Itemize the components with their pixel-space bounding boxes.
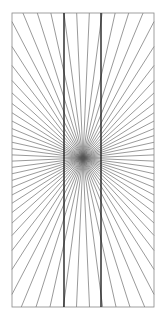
ray-line: [37, 13, 83, 158]
ray-line: [12, 158, 83, 294]
ray-line: [83, 158, 154, 269]
radiating-lines: [12, 13, 154, 307]
ray-line: [12, 158, 83, 269]
ray-line: [76, 158, 83, 307]
ray-line: [83, 158, 130, 307]
ray-line: [12, 158, 83, 195]
ray-line: [23, 13, 83, 158]
ray-line: [83, 22, 154, 158]
ray-line: [83, 158, 154, 195]
ray-line: [21, 158, 83, 307]
ray-line: [12, 47, 83, 158]
ray-line: [12, 22, 83, 158]
ray-line: [12, 121, 83, 158]
ray-line: [83, 13, 129, 158]
ray-line: [83, 13, 143, 158]
ray-line: [83, 158, 90, 307]
hering-illusion-figure: [0, 0, 164, 320]
ray-line: [83, 158, 154, 294]
ray-line: [83, 158, 145, 307]
ray-line: [36, 158, 83, 307]
ray-line: [83, 121, 154, 158]
ray-line: [83, 47, 154, 158]
